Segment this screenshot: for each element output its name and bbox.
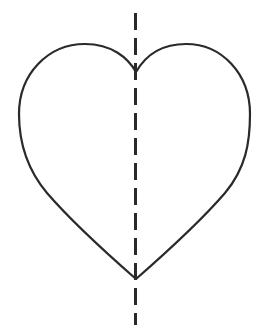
canvas-background <box>0 0 266 331</box>
figure-canvas: Heart shape with vertical line of symmet… <box>0 0 266 331</box>
heart-symmetry-figure: Heart shape with vertical line of symmet… <box>0 0 266 331</box>
